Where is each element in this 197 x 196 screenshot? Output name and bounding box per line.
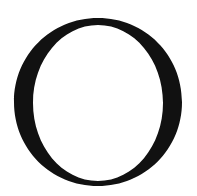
letter-o-glyph xyxy=(0,0,197,196)
